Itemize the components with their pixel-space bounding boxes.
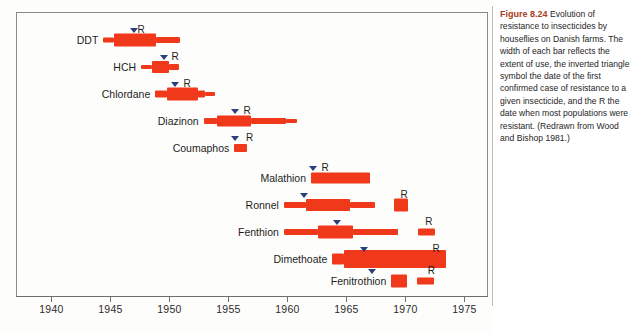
caption-divider	[492, 6, 493, 306]
insecticide-row: FenitrothionR	[0, 268, 492, 294]
usage-bar-segment	[418, 229, 435, 236]
x-axis-line	[16, 296, 488, 297]
first-resistance-marker-icon	[360, 247, 368, 252]
x-axis-tick-label: 1960	[275, 303, 299, 315]
widespread-resistance-label: R	[246, 132, 253, 143]
usage-bar-segment	[155, 91, 167, 98]
insecticide-row: DiazinonR	[0, 108, 492, 134]
insecticide-label: Malathion	[0, 172, 306, 184]
usage-bar-segment	[204, 118, 217, 124]
insecticide-label: Fenthion	[0, 226, 279, 238]
widespread-resistance-label: R	[172, 51, 179, 62]
x-axis-tick	[464, 297, 465, 302]
insecticide-label: Fenitrothion	[0, 275, 386, 287]
figure-panel: 19401945195019551960196519701975 DDTRHCH…	[0, 0, 492, 334]
first-resistance-marker-icon	[171, 82, 179, 87]
insecticide-row: FenthionR	[0, 219, 492, 245]
x-axis-tick	[228, 297, 229, 302]
figure-caption-text: Evolution of resistance to insecticides …	[500, 9, 629, 143]
x-axis-tick	[287, 297, 288, 302]
widespread-resistance-label: R	[432, 243, 439, 254]
usage-bar-segment	[286, 119, 297, 123]
insecticide-label: Diazinon	[0, 115, 199, 127]
x-axis-tick	[405, 297, 406, 302]
x-axis-tick-label: 1950	[157, 303, 181, 315]
insecticide-label: Dimethoate	[0, 253, 327, 265]
usage-bar-segment	[103, 38, 114, 43]
insecticide-label: DDT	[0, 34, 98, 46]
usage-bar-segment	[311, 173, 370, 184]
x-axis-tick-label: 1945	[98, 303, 122, 315]
usage-bar-segment	[169, 64, 178, 70]
insecticide-row: ChlordaneR	[0, 81, 492, 107]
first-resistance-marker-icon	[333, 220, 341, 225]
widespread-resistance-label: R	[401, 189, 408, 200]
usage-bar-segment	[167, 88, 198, 101]
widespread-resistance-label: R	[321, 162, 328, 173]
first-resistance-marker-icon	[231, 136, 239, 141]
first-resistance-marker-icon	[368, 269, 376, 274]
usage-bar-segment	[152, 61, 170, 73]
insecticide-label: Chlordane	[0, 88, 150, 100]
usage-bar-segment	[318, 226, 353, 239]
widespread-resistance-label: R	[137, 24, 144, 35]
x-axis-tick-label: 1970	[393, 303, 417, 315]
first-resistance-marker-icon	[300, 193, 308, 198]
usage-bar-segment	[234, 144, 247, 152]
first-resistance-marker-icon	[231, 109, 239, 114]
usage-bar-segment	[417, 278, 434, 285]
widespread-resistance-label: R	[428, 265, 435, 276]
usage-bar-segment	[391, 275, 406, 288]
usage-bar-segment	[394, 199, 408, 212]
insecticide-row: RonnelR	[0, 192, 492, 218]
insecticide-label: HCH	[0, 61, 136, 73]
figure-number: Figure 8.24	[500, 9, 548, 19]
usage-bar-segment	[198, 91, 205, 98]
widespread-resistance-label: R	[183, 78, 190, 89]
usage-bar-segment	[353, 229, 398, 235]
usage-bar-segment	[306, 199, 350, 211]
x-axis-tick-label: 1965	[334, 303, 358, 315]
x-axis-tick-label: 1940	[39, 303, 63, 315]
usage-bar-segment	[284, 229, 318, 235]
usage-bar-segment	[217, 116, 251, 127]
x-axis-tick-label: 1955	[216, 303, 240, 315]
x-axis-tick-label: 1975	[452, 303, 476, 315]
usage-bar-segment	[332, 254, 344, 265]
usage-bar-segment	[284, 202, 306, 208]
first-resistance-marker-icon	[160, 55, 168, 60]
usage-bar-segment	[251, 118, 286, 124]
insecticide-row: CoumaphosR	[0, 135, 492, 161]
x-axis-tick	[169, 297, 170, 302]
usage-bar-segment	[114, 34, 156, 47]
widespread-resistance-label: R	[425, 216, 432, 227]
usage-bar-segment	[156, 37, 180, 43]
insecticide-label: Coumaphos	[0, 142, 229, 154]
figure-caption: Figure 8.24 Evolution of resistance to i…	[500, 8, 631, 144]
x-axis-tick	[51, 297, 52, 302]
x-axis-tick	[346, 297, 347, 302]
x-axis-tick	[110, 297, 111, 302]
insecticide-row: HCHR	[0, 54, 492, 80]
insecticide-row: MalathionR	[0, 165, 492, 191]
widespread-resistance-label: R	[244, 105, 251, 116]
usage-bar-segment	[350, 202, 375, 208]
usage-bar-segment	[205, 92, 216, 96]
first-resistance-marker-icon	[309, 166, 317, 171]
insecticide-label: Ronnel	[0, 199, 279, 211]
insecticide-row: DDTR	[0, 27, 492, 53]
usage-bar-segment	[141, 65, 152, 69]
